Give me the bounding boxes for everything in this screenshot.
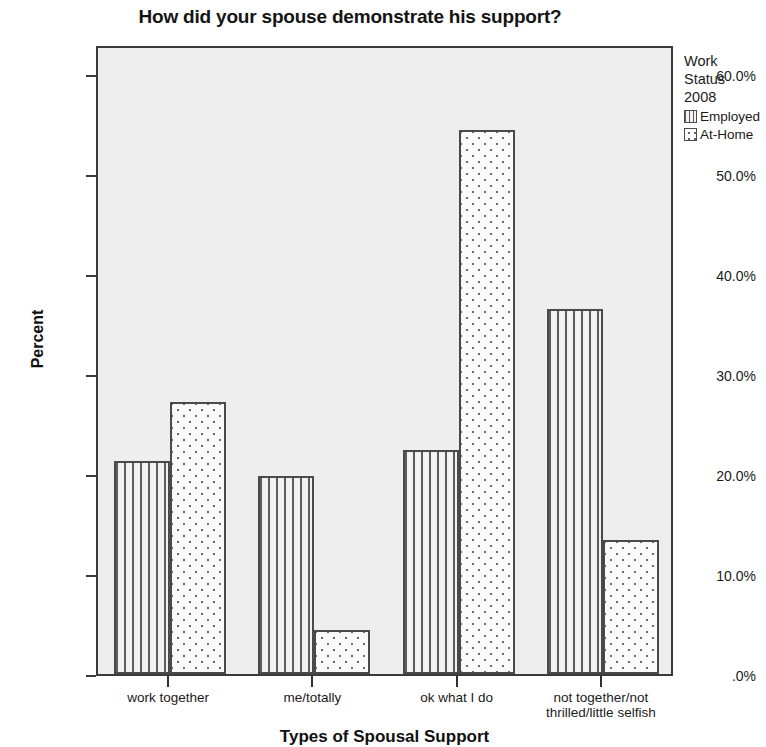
y-tick-mark: [86, 575, 96, 577]
x-tick-label: ok what I do: [420, 690, 493, 705]
y-tick-label: .0%: [732, 668, 756, 684]
y-tick-mark: [86, 475, 96, 477]
y-tick-mark: [86, 275, 96, 277]
legend-title-line: Work: [684, 52, 766, 70]
legend-title-line: Status: [684, 70, 766, 88]
y-tick-label: 20.0%: [716, 468, 756, 484]
legend-label: Employed: [700, 109, 760, 124]
bar-athome-1: [314, 630, 370, 674]
x-tick-mark: [311, 676, 313, 687]
bar-employed-0: [114, 461, 170, 674]
chart-title: How did your spouse demonstrate his supp…: [0, 6, 700, 28]
y-tick-mark: [86, 175, 96, 177]
x-tick-mark: [600, 676, 602, 687]
legend-entry-athome[interactable]: At-Home: [684, 127, 766, 142]
x-tick-label: not together/notthrilled/little selfish: [546, 690, 656, 720]
y-tick-label: 50.0%: [716, 168, 756, 184]
bars-container: [98, 48, 671, 674]
x-axis-title: Types of Spousal Support: [96, 727, 673, 747]
plot-area: [96, 46, 673, 676]
y-tick-mark: [86, 675, 96, 677]
legend-title-line: 2008: [684, 88, 766, 106]
x-tick-mark: [456, 676, 458, 687]
legend-entries: EmployedAt-Home: [684, 109, 766, 142]
legend-entry-employed[interactable]: Employed: [684, 109, 766, 124]
legend-label: At-Home: [700, 127, 753, 142]
legend-swatch-employed-icon: [684, 110, 697, 123]
legend: WorkStatus2008 EmployedAt-Home: [684, 52, 766, 142]
bar-athome-3: [603, 540, 659, 674]
bar-employed-3: [547, 309, 603, 674]
x-tick-mark: [167, 676, 169, 687]
bar-athome-0: [170, 402, 226, 674]
y-tick-label: 40.0%: [716, 268, 756, 284]
y-tick-mark: [86, 375, 96, 377]
legend-swatch-athome-icon: [684, 128, 697, 141]
legend-title: WorkStatus2008: [684, 52, 766, 106]
y-axis-title: Percent: [29, 269, 47, 409]
bar-athome-2: [459, 130, 515, 674]
y-tick-mark: [86, 75, 96, 77]
bar-employed-2: [403, 450, 459, 674]
y-tick-label: 10.0%: [716, 568, 756, 584]
x-tick-label: me/totally: [283, 690, 341, 705]
y-tick-label: 30.0%: [716, 368, 756, 384]
x-tick-label: work together: [127, 690, 209, 705]
bar-employed-1: [258, 476, 314, 674]
